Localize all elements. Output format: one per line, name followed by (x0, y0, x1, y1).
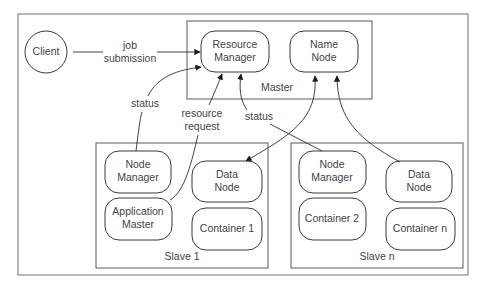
edge-job-submission: job submission (73, 39, 200, 64)
slave-n-container-n: Container n (386, 208, 455, 250)
client-node: Client (25, 31, 67, 73)
slave-n-node-manager: Node Manager (299, 151, 366, 193)
status-slave-1-label: status (131, 97, 159, 109)
resource-request-label-line2: request (184, 120, 219, 132)
client-label: Client (33, 45, 60, 57)
slave-n-container-2-label: Container 2 (305, 212, 359, 224)
slave-1-application-master: Application Master (105, 198, 172, 240)
job-submission-label-line1: job (122, 39, 137, 51)
name-node-label-line1: Name (310, 38, 338, 50)
slave-n-node-manager-line2: Manager (311, 171, 353, 183)
slave-1-data-node-line1: Data (216, 168, 238, 180)
master-group: Master Resource Manager Name Node (187, 21, 372, 99)
slave-1-label: Slave 1 (164, 250, 199, 262)
hadoop-yarn-architecture-diagram: Client Master Resource Manager Name Node… (0, 0, 486, 289)
slave-1-node-manager: Node Manager (105, 151, 171, 193)
resource-manager-node: Resource Manager (201, 31, 269, 72)
name-node-label-line2: Node (311, 51, 336, 63)
job-submission-label-line2: submission (104, 52, 157, 64)
slave-n-container-n-label: Container n (393, 222, 447, 234)
resource-request-label-line1: resource (182, 107, 223, 119)
slave-1-container-label: Container 1 (200, 222, 254, 234)
slave-n-label: Slave n (359, 250, 394, 262)
slave-1-data-node: Data Node (192, 161, 262, 202)
status-slave-n-label: status (245, 110, 273, 122)
slave-1-node-manager-line2: Manager (117, 171, 159, 183)
slave-1-application-master-line2: Master (122, 218, 155, 230)
slave-n-container-2: Container 2 (299, 198, 366, 240)
edge-datanode-n-namenode (337, 76, 400, 162)
slave-1-container-1: Container 1 (192, 208, 262, 250)
slave-n-data-node: Data Node (386, 161, 452, 202)
slave-n-group: Slave n Node Manager Container 2 Data No… (291, 143, 463, 268)
slave-1-group: Slave 1 Node Manager Application Master … (96, 143, 268, 268)
slave-n-data-node-line2: Node (406, 181, 431, 193)
resource-manager-label-line1: Resource (213, 38, 258, 50)
slave-1-data-node-line2: Node (214, 181, 239, 193)
slave-n-data-node-line1: Data (408, 168, 430, 180)
slave-n-node-manager-line1: Node (319, 158, 344, 170)
slave-1-node-manager-line1: Node (125, 158, 150, 170)
master-label: Master (261, 81, 294, 93)
name-node: Name Node (290, 31, 358, 72)
resource-manager-label-line2: Manager (214, 51, 256, 63)
slave-1-application-master-line1: Application (112, 205, 164, 217)
